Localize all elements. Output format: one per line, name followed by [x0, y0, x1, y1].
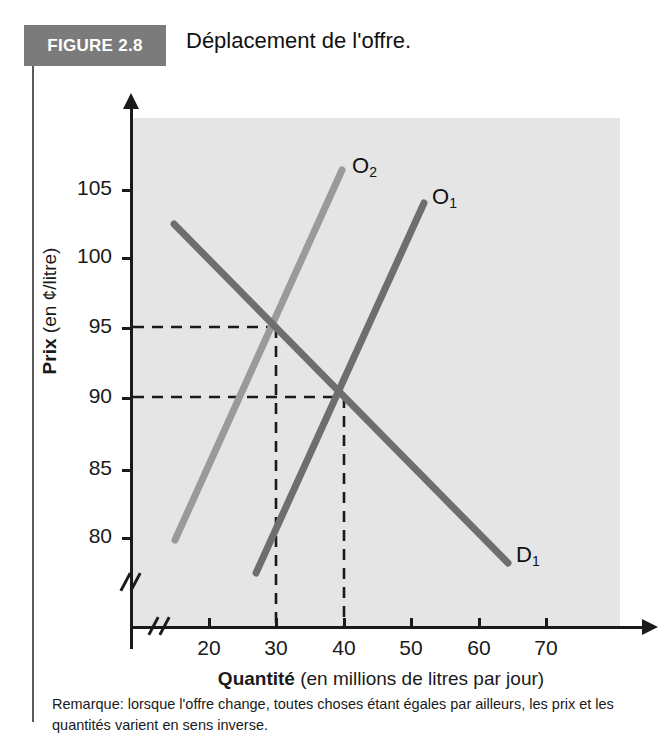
y-axis-title: Prix (en ¢/litre) — [39, 201, 61, 421]
curve-label-o1: O1 — [432, 184, 457, 210]
x-axis-title: Quantité (en millions de litres par jour… — [131, 668, 631, 690]
supply-shift-chart: 105 100 95 90 85 80 20 30 40 50 60 70 — [0, 0, 670, 738]
x-axis-title-bold: Quantité — [218, 668, 295, 689]
curve-o2 — [175, 170, 342, 540]
y-axis-title-rest: (en ¢/litre) — [39, 248, 60, 339]
y-axis-title-bold: Prix — [39, 338, 60, 374]
curve-label-d1: D1 — [516, 542, 540, 568]
figure-note: Remarque: lorsque l'offre change, toutes… — [52, 694, 652, 736]
curve-d1 — [174, 224, 508, 563]
curve-label-o2: O2 — [352, 153, 377, 179]
x-axis-title-rest: (en millions de litres par jour) — [295, 668, 544, 689]
curves-layer — [0, 0, 670, 738]
